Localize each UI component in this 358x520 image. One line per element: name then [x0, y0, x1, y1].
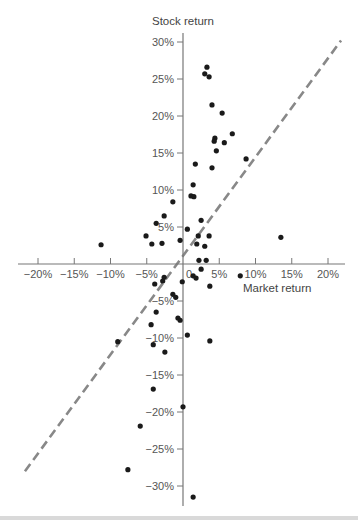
x-tick-label: −5%	[136, 268, 159, 280]
data-point	[209, 165, 214, 170]
data-point	[194, 241, 199, 246]
data-point	[209, 102, 214, 107]
y-tick-label: −10%	[146, 332, 175, 344]
data-point	[196, 258, 201, 263]
data-point	[222, 140, 227, 145]
data-point	[151, 342, 156, 347]
x-tick-label: −20%	[24, 268, 53, 280]
bottom-edge-bar	[0, 516, 358, 520]
y-tick-label: 30%	[152, 36, 174, 48]
x-tick-label: −15%	[60, 268, 89, 280]
data-point	[191, 182, 196, 187]
data-point	[180, 404, 185, 409]
data-point	[98, 242, 103, 247]
data-point	[162, 349, 167, 354]
y-axis-title: Stock return	[152, 15, 214, 27]
y-tick-label: −20%	[146, 406, 175, 418]
data-point	[191, 194, 196, 199]
data-point	[138, 423, 143, 428]
data-point	[207, 338, 212, 343]
data-point	[207, 233, 212, 238]
data-point	[207, 284, 212, 289]
data-point	[196, 233, 201, 238]
y-tick-label: 25%	[152, 73, 174, 85]
data-point	[278, 235, 283, 240]
data-point	[125, 467, 130, 472]
data-point	[178, 238, 183, 243]
data-point	[180, 279, 185, 284]
data-point	[238, 273, 243, 278]
data-point	[191, 495, 196, 500]
y-tick-label: −30%	[146, 480, 175, 492]
data-point	[149, 241, 154, 246]
data-point	[162, 213, 167, 218]
x-tick-label: 20%	[317, 268, 339, 280]
data-point	[199, 218, 204, 223]
y-tick-label: −15%	[146, 369, 175, 381]
data-point	[193, 275, 198, 280]
y-tick-label: −5%	[152, 295, 175, 307]
x-tick-label: 0	[186, 268, 192, 280]
data-point	[243, 156, 248, 161]
x-tick-label: 15%	[281, 268, 303, 280]
data-point	[185, 227, 190, 232]
y-tick-label: 5%	[158, 221, 174, 233]
data-point	[230, 131, 235, 136]
data-point	[199, 267, 204, 272]
y-tick-label: 15%	[152, 147, 174, 159]
y-tick-label: 20%	[152, 110, 174, 122]
y-tick-label: 10%	[152, 184, 174, 196]
data-point	[202, 71, 207, 76]
y-tick-label: −25%	[146, 443, 175, 455]
data-point	[214, 148, 219, 153]
x-tick-label: 10%	[244, 268, 266, 280]
x-tick-label: 5%	[211, 268, 227, 280]
x-axis-title: Market return	[243, 282, 311, 294]
data-point	[178, 318, 183, 323]
data-point	[204, 258, 209, 263]
data-point	[204, 65, 209, 70]
data-point	[154, 221, 159, 226]
data-point	[193, 162, 198, 167]
data-point	[185, 332, 190, 337]
data-point	[159, 241, 164, 246]
data-point	[154, 310, 159, 315]
data-point	[151, 386, 156, 391]
x-tick-label: −10%	[96, 268, 125, 280]
data-point	[212, 139, 217, 144]
data-point	[160, 278, 165, 283]
data-point	[152, 281, 157, 286]
data-point	[207, 74, 212, 79]
data-point	[170, 199, 175, 204]
scatter-chart: −20%−15%−10%−5%05%10%15%20%30%25%20%15%1…	[0, 0, 358, 520]
data-point	[173, 295, 178, 300]
data-point	[149, 322, 154, 327]
data-point	[143, 233, 148, 238]
data-point	[220, 110, 225, 115]
data-point	[115, 339, 120, 344]
data-point	[202, 244, 207, 249]
